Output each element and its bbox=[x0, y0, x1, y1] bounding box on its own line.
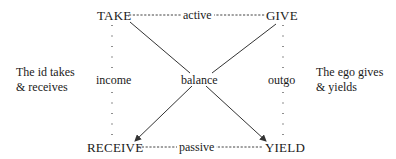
left-note: The id takes & receives bbox=[16, 65, 75, 95]
left-note-line2: & receives bbox=[16, 80, 75, 95]
right-note-line2: & yields bbox=[316, 80, 383, 95]
arrow-balance-yield bbox=[206, 86, 266, 141]
node-yield: YIELD bbox=[265, 141, 305, 154]
edge-label-active: active bbox=[181, 9, 214, 21]
edge-label-passive: passive bbox=[177, 141, 216, 153]
right-note-line1: The ego gives bbox=[316, 65, 383, 80]
center-label-balance: balance bbox=[179, 74, 220, 86]
node-give: GIVE bbox=[266, 9, 298, 22]
arrow-balance-receive bbox=[135, 86, 192, 141]
diagonal-balance-give bbox=[212, 24, 276, 73]
node-take: TAKE bbox=[97, 9, 131, 22]
edge-label-outgo: outgo bbox=[266, 74, 297, 86]
right-note: The ego gives & yields bbox=[316, 65, 383, 95]
left-note-line1: The id takes bbox=[16, 65, 75, 80]
diagonal-take-balance bbox=[130, 22, 190, 73]
node-receive: RECEIVE bbox=[87, 141, 143, 154]
edge-label-income: income bbox=[94, 74, 133, 86]
